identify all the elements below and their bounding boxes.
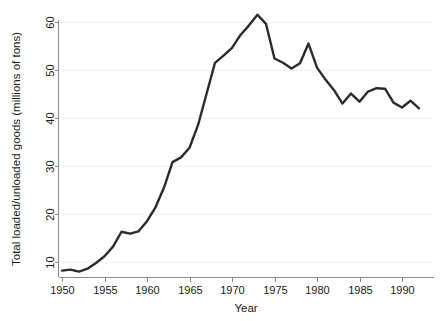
y-tick-label: 50	[44, 64, 56, 76]
x-axis-title: Year	[234, 302, 257, 314]
line-chart-canvas: 102030405060 195019551960196519701975198…	[0, 0, 442, 321]
x-tick-label: 1955	[93, 284, 117, 296]
chart-background	[0, 0, 442, 321]
y-tick-label: 30	[44, 160, 56, 172]
y-tick-label: 60	[44, 16, 56, 28]
x-tick-label: 1950	[50, 284, 74, 296]
x-tick-label: 1980	[305, 284, 329, 296]
x-tick-label: 1965	[178, 284, 202, 296]
x-tick-label: 1990	[390, 284, 414, 296]
y-axis-title: Total loaded/unloaded goods (millions of…	[10, 32, 22, 266]
x-tick-label: 1970	[220, 284, 244, 296]
x-tick-label: 1960	[135, 284, 159, 296]
chart-figure: 102030405060 195019551960196519701975198…	[0, 0, 442, 321]
x-tick-label: 1985	[348, 284, 372, 296]
y-tick-label: 10	[44, 256, 56, 268]
y-tick-label: 40	[44, 112, 56, 124]
y-tick-label: 20	[44, 208, 56, 220]
x-tick-label: 1975	[263, 284, 287, 296]
